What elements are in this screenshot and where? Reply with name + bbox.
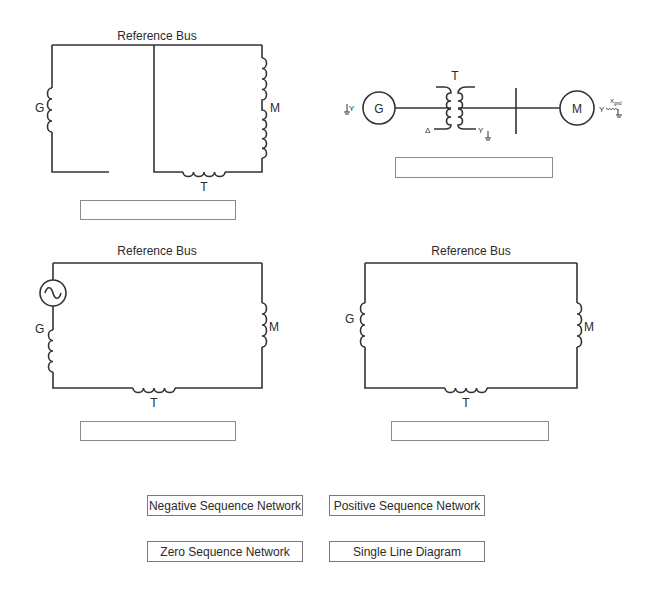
- motor-label: M: [584, 320, 594, 334]
- choice-single-line-diagram[interactable]: Single Line Diagram: [329, 541, 485, 562]
- choice-negative-sequence-network[interactable]: Negative Sequence Network: [147, 495, 303, 516]
- answer-box-bottom-right[interactable]: [391, 421, 549, 441]
- transformer-label: T: [150, 396, 158, 410]
- reference-bus-label: Reference Bus: [431, 244, 510, 258]
- gen-wye-label: Y: [349, 104, 355, 113]
- transformer-inductor: [445, 388, 487, 393]
- wire: [487, 347, 577, 388]
- motor-label: M: [270, 101, 280, 115]
- motor-label: M: [269, 320, 279, 334]
- motor-wye-label: Y: [599, 105, 605, 114]
- generator-label: G: [35, 101, 44, 115]
- generator-label: G: [374, 102, 383, 116]
- network-top-left: Reference Bus G T M: [35, 29, 280, 194]
- answer-box-bottom-left[interactable]: [80, 421, 236, 441]
- ground-reactance-icon: [606, 108, 622, 117]
- motor-label: M: [572, 102, 582, 116]
- transformer-label: T: [451, 69, 459, 83]
- generator-label: G: [345, 312, 354, 326]
- transformer-label: T: [462, 396, 470, 410]
- reference-bus-label: Reference Bus: [117, 29, 196, 43]
- ground-reactance-label: Xgnd: [610, 98, 622, 106]
- answer-box-top-right[interactable]: [395, 157, 553, 178]
- delta-label: Δ: [425, 126, 431, 135]
- wire: [53, 372, 133, 388]
- transformer-inductor: [183, 172, 225, 177]
- motor-inductor: [262, 58, 267, 158]
- choice-zero-sequence-network[interactable]: Zero Sequence Network: [147, 541, 303, 562]
- transformer-label: T: [200, 180, 208, 194]
- wire: [175, 347, 262, 388]
- transformer-inductor: [133, 388, 175, 393]
- motor-inductor: [262, 303, 267, 347]
- ground-icon: [485, 131, 491, 140]
- wire-open-end: [52, 132, 109, 172]
- generator-inductor: [48, 88, 53, 132]
- generator-label: G: [35, 322, 44, 336]
- generator-inductor: [361, 303, 366, 347]
- wire: [365, 347, 445, 388]
- sine-wave-icon: [45, 288, 61, 299]
- choice-positive-sequence-network[interactable]: Positive Sequence Network: [329, 495, 485, 516]
- xfmr-wye-label: Y: [478, 126, 484, 135]
- answer-box-top-left[interactable]: [80, 200, 236, 220]
- wire: [225, 158, 262, 172]
- generator-inductor: [49, 330, 54, 372]
- motor-inductor: [577, 303, 582, 347]
- wire: [154, 45, 183, 172]
- network-bottom-right: Reference Bus G T M: [345, 244, 594, 410]
- network-bottom-left: Reference Bus G T M: [35, 244, 279, 410]
- reference-bus-label: Reference Bus: [117, 244, 196, 258]
- sequence-network-diagrams: Reference Bus G T M Y G T Δ Y: [0, 0, 645, 591]
- single-line-diagram: Y G T Δ Y M Y Xgnd: [344, 69, 622, 140]
